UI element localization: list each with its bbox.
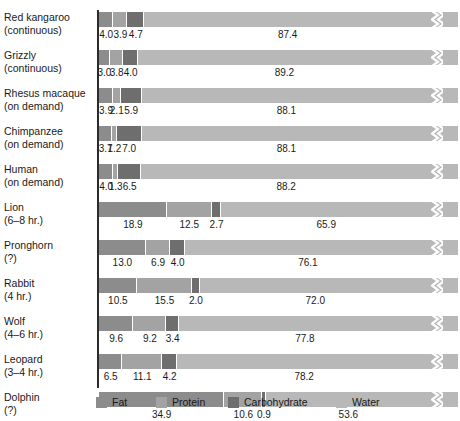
category-name: Leopard	[4, 353, 43, 365]
category-name: Rhesus macaque	[4, 87, 86, 99]
legend-swatch-protein	[156, 397, 167, 408]
category-sublabel: (4 hr.)	[4, 290, 94, 303]
bar-segment-carbohydrate	[117, 126, 142, 141]
bar-segment-water	[144, 12, 458, 27]
category-label: Chimpanzee(on demand)	[4, 125, 94, 150]
stacked-bar-chart: Red kangaroo(continuous)4.03.94.787.4Gri…	[0, 0, 460, 421]
segment-value-water: 78.2	[287, 370, 321, 383]
segment-value-water: 88.1	[269, 142, 303, 155]
bar-row: Lion(6–8 hr.)18.912.52.765.9	[0, 200, 460, 238]
legend-swatch-water	[336, 397, 347, 408]
value-labels: 13.06.94.076.1	[99, 256, 460, 270]
segment-value-water: 77.8	[288, 332, 322, 345]
segment-value-water: 65.9	[309, 218, 343, 231]
value-labels: 3.03.84.089.2	[99, 66, 460, 80]
value-labels: 9.69.23.477.8	[99, 332, 460, 346]
legend-item-protein[interactable]: Protein	[156, 394, 205, 410]
stacked-bar	[99, 240, 460, 255]
legend-label: Water	[352, 396, 380, 408]
bar-segment-protein	[146, 240, 171, 255]
value-labels: 4.01.36.588.2	[99, 180, 460, 194]
bar-segment-carbohydrate	[166, 316, 178, 331]
category-sublabel: (continuous)	[4, 62, 94, 75]
segment-value-fat: 18.9	[116, 218, 150, 231]
bar-segment-fat	[99, 164, 113, 179]
bar-segment-protein	[133, 316, 166, 331]
bar-segment-fat	[99, 354, 122, 369]
segment-value-carbohydrate: 2.0	[179, 294, 213, 307]
segment-value-water: 88.2	[269, 180, 303, 193]
segment-value-fat: 9.6	[99, 332, 133, 345]
bar-segment-carbohydrate	[192, 278, 199, 293]
category-sublabel: (4–6 hr.)	[4, 328, 94, 341]
category-sublabel: (3–4 hr.)	[4, 366, 94, 379]
category-sublabel: (on demand)	[4, 138, 94, 151]
stacked-bar	[99, 164, 460, 179]
category-sublabel: (6–8 hr.)	[4, 214, 94, 227]
segment-value-carbohydrate: 4.7	[119, 28, 153, 41]
bar-row: Leopard(3–4 hr.)6.511.14.278.2	[0, 352, 460, 390]
bar-row: Grizzly(continuous)3.03.84.089.2	[0, 48, 460, 86]
bar-row: Rhesus macaque(on demand)3.92.15.988.1	[0, 86, 460, 124]
category-label: Rhesus macaque(on demand)	[4, 87, 94, 112]
stacked-bar	[99, 88, 460, 103]
category-label: Pronghorn(?)	[4, 239, 94, 264]
bar-segment-water	[177, 354, 458, 369]
bar-segment-fat	[99, 240, 146, 255]
segment-value-carbohydrate: 4.0	[161, 256, 195, 269]
legend-item-water[interactable]: Water	[336, 394, 380, 410]
bar-segment-protein	[113, 12, 127, 27]
bar-segment-protein	[110, 50, 124, 65]
bar-row: Red kangaroo(continuous)4.03.94.787.4	[0, 10, 460, 48]
category-name: Lion	[4, 201, 24, 213]
bar-row: Rabbit(4 hr.)10.515.52.072.0	[0, 276, 460, 314]
legend-label: Protein	[172, 396, 205, 408]
value-labels: 3.71.27.088.1	[99, 142, 460, 156]
category-name: Rabbit	[4, 277, 34, 289]
legend-label: Fat	[112, 396, 127, 408]
bar-row: Human(on demand)4.01.36.588.2	[0, 162, 460, 200]
category-label: Wolf(4–6 hr.)	[4, 315, 94, 340]
category-label: Lion(6–8 hr.)	[4, 201, 94, 226]
category-label: Red kangaroo(continuous)	[4, 11, 94, 36]
bar-segment-carbohydrate	[127, 12, 144, 27]
bar-rows-container: Red kangaroo(continuous)4.03.94.787.4Gri…	[0, 10, 460, 421]
stacked-bar	[99, 50, 460, 65]
segment-value-water: 72.0	[298, 294, 332, 307]
bar-segment-carbohydrate	[162, 354, 177, 369]
segment-value-carbohydrate: 4.0	[114, 66, 148, 79]
legend-item-fat[interactable]: Fat	[96, 394, 127, 410]
segment-value-fat: 6.5	[94, 370, 128, 383]
bar-segment-fat	[99, 202, 167, 217]
category-name: Chimpanzee	[4, 125, 63, 137]
category-sublabel: (?)	[4, 252, 94, 265]
bar-segment-protein	[137, 278, 193, 293]
category-name: Wolf	[4, 315, 25, 327]
category-label: Rabbit(4 hr.)	[4, 277, 94, 302]
category-sublabel: (on demand)	[4, 100, 94, 113]
value-labels: 18.912.52.765.9	[99, 218, 460, 232]
value-labels: 4.03.94.787.4	[99, 28, 460, 42]
segment-value-carbohydrate: 2.7	[200, 218, 234, 231]
segment-value-fat: 13.0	[105, 256, 139, 269]
bar-segment-fat	[99, 12, 113, 27]
value-labels: 10.515.52.072.0	[99, 294, 460, 308]
bar-segment-water	[179, 316, 458, 331]
bar-row: Pronghorn(?)13.06.94.076.1	[0, 238, 460, 276]
legend-swatch-carbohydrate	[228, 397, 239, 408]
chart-legend: FatProteinCarbohydrateWater	[0, 394, 460, 412]
stacked-bar	[99, 278, 460, 293]
segment-value-carbohydrate: 5.9	[114, 104, 148, 117]
segment-value-water: 89.2	[267, 66, 301, 79]
bar-segment-carbohydrate	[212, 202, 222, 217]
stacked-bar	[99, 354, 460, 369]
category-label: Leopard(3–4 hr.)	[4, 353, 94, 378]
legend-swatch-fat	[96, 397, 107, 408]
category-sublabel: (on demand)	[4, 176, 94, 189]
legend-item-carbohydrate[interactable]: Carbohydrate	[228, 394, 308, 410]
segment-value-carbohydrate: 7.0	[112, 142, 146, 155]
bar-segment-protein	[167, 202, 212, 217]
bar-row: Wolf(4–6 hr.)9.69.23.477.8	[0, 314, 460, 352]
segment-value-carbohydrate: 3.4	[156, 332, 190, 345]
bar-segment-fat	[99, 278, 137, 293]
